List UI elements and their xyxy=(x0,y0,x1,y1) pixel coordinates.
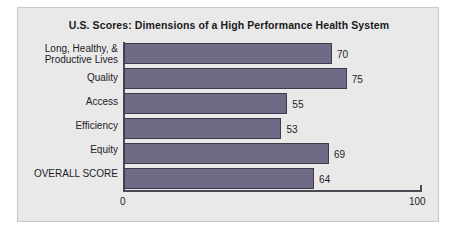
bar-long-healthy-productive-lives[interactable] xyxy=(124,43,332,64)
bar-value-quality: 75 xyxy=(352,73,363,84)
bar-row: 55 xyxy=(123,93,421,114)
bar-value-access: 55 xyxy=(292,98,303,109)
category-label-overall-score: OVERALL SCORE xyxy=(18,169,118,180)
category-label-access: Access xyxy=(18,97,118,108)
bar-access[interactable] xyxy=(124,93,287,114)
category-label-quality: Quality xyxy=(18,73,118,84)
bar-efficiency[interactable] xyxy=(124,118,281,139)
bar-equity[interactable] xyxy=(124,143,329,164)
chart-title: U.S. Scores: Dimensions of a High Perfor… xyxy=(18,19,440,31)
bar-row: 53 xyxy=(123,118,421,139)
x-axis-tick-label-100: 100 xyxy=(409,196,426,207)
x-axis-line xyxy=(123,190,422,192)
chart-panel: U.S. Scores: Dimensions of a High Perfor… xyxy=(17,7,439,222)
category-label-efficiency: Efficiency xyxy=(18,121,118,132)
category-axis-labels: Long, Healthy, & Productive Lives Qualit… xyxy=(18,42,118,190)
bar-value-efficiency: 53 xyxy=(286,123,297,134)
x-axis-tick-label-0: 0 xyxy=(120,196,126,207)
bar-row: 70 xyxy=(123,43,421,64)
bar-row: 69 xyxy=(123,143,421,164)
plot-area: 0 100 70 75 55 53 69 64 xyxy=(123,42,421,190)
bar-value-overall-score: 64 xyxy=(319,173,330,184)
bar-overall-score[interactable] xyxy=(124,168,314,189)
bar-value-long-healthy-productive-lives: 70 xyxy=(337,48,348,59)
category-label-equity: Equity xyxy=(18,145,118,156)
bar-value-equity: 69 xyxy=(334,148,345,159)
bar-quality[interactable] xyxy=(124,68,347,89)
category-label-long-healthy-productive-lives: Long, Healthy, & Productive Lives xyxy=(18,44,118,65)
bar-row: 64 xyxy=(123,168,421,189)
bar-row: 75 xyxy=(123,68,421,89)
